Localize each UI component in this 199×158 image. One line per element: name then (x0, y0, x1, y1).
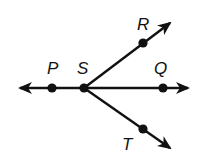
point-s (79, 83, 88, 92)
point-q (158, 83, 167, 92)
label-s: S (77, 59, 89, 78)
point-r (138, 38, 147, 47)
ray-sr (84, 23, 170, 88)
label-t: T (122, 135, 134, 154)
geometry-diagram: P S Q R T (0, 0, 199, 158)
label-p: P (47, 59, 59, 78)
label-r: R (137, 15, 149, 34)
label-q: Q (154, 59, 167, 78)
point-t (138, 124, 147, 133)
point-p (47, 83, 56, 92)
